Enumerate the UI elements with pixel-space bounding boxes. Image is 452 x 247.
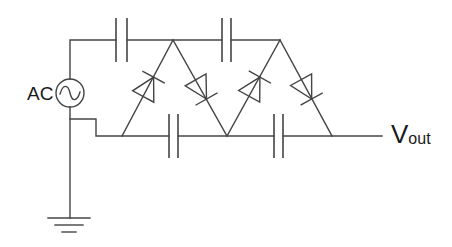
output-label-main: V	[391, 119, 409, 149]
capacitor-top-2	[222, 18, 231, 62]
capacitor-bottom-1	[169, 114, 178, 158]
output-label: Vout	[391, 119, 431, 149]
top-rail	[70, 40, 280, 79]
capacitor-top-1	[116, 18, 127, 62]
ground-icon	[48, 218, 90, 232]
ac-source-label: AC	[27, 83, 53, 104]
capacitor-bottom-2	[274, 114, 283, 158]
output-label-subscript: out	[408, 130, 431, 147]
voltage-multiplier-circuit: AC Vout	[0, 0, 452, 247]
ac-source-icon	[56, 79, 84, 107]
